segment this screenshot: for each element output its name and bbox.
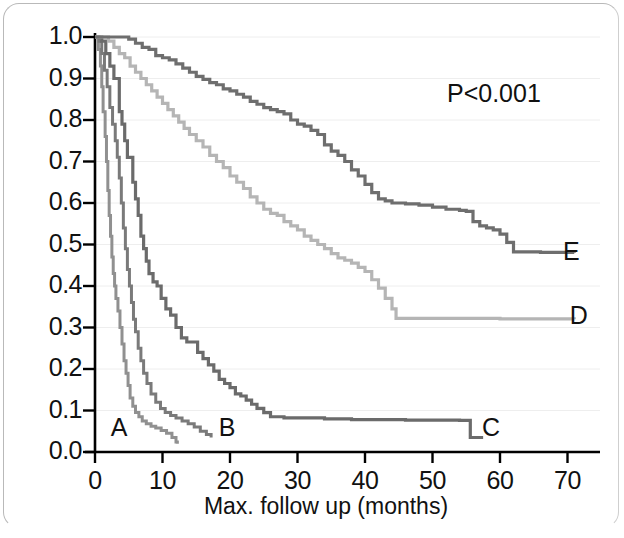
curve-label-a: A xyxy=(111,413,128,442)
x-tick-label-20: 20 xyxy=(200,466,260,495)
x-axis-title: Max. follow up (months) xyxy=(96,493,556,520)
y-tick-label-0.6: 0.6 xyxy=(12,187,82,216)
x-tick-label-0: 0 xyxy=(65,466,125,495)
y-tick-label-0.7: 0.7 xyxy=(12,146,82,175)
y-tick-label-1.0: 1.0 xyxy=(12,21,82,50)
x-tick-label-30: 30 xyxy=(268,466,328,495)
survival-curve-a xyxy=(95,37,177,444)
survival-curve-c xyxy=(95,37,483,437)
curve-label-c: C xyxy=(482,413,500,442)
y-tick-label-0.8: 0.8 xyxy=(12,104,82,133)
y-tick-label-0.4: 0.4 xyxy=(12,270,82,299)
y-tick-label-0.2: 0.2 xyxy=(12,353,82,382)
curve-label-d: D xyxy=(570,301,588,330)
x-tick-label-40: 40 xyxy=(335,466,395,495)
curve-label-e: E xyxy=(563,237,580,266)
y-tick-label-0.9: 0.9 xyxy=(12,63,82,92)
x-tick-label-50: 50 xyxy=(403,466,463,495)
survival-curve-e xyxy=(95,37,574,253)
y-tick-label-0.1: 0.1 xyxy=(12,395,82,424)
y-tick-label-0.5: 0.5 xyxy=(12,229,82,258)
x-tick-label-10: 10 xyxy=(133,466,193,495)
x-tick-label-60: 60 xyxy=(470,466,530,495)
p-value-annotation: P<0.001 xyxy=(447,79,541,108)
x-tick-label-70: 70 xyxy=(538,466,598,495)
y-tick-label-0.0: 0.0 xyxy=(12,436,82,465)
kaplan-meier-figure: 0.00.10.20.30.40.50.60.70.80.91.0 010203… xyxy=(0,0,624,538)
y-tick-label-0.3: 0.3 xyxy=(12,312,82,341)
curve-label-b: B xyxy=(219,413,236,442)
